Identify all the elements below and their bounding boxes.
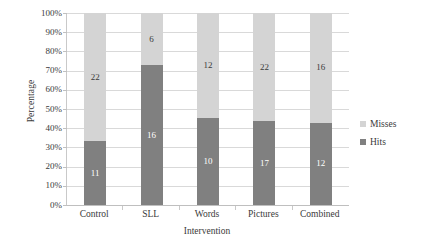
x-axis-tick-control: Control — [66, 208, 122, 220]
bar-segment-hits-control[interactable]: 11 — [84, 141, 106, 205]
x-axis-title: Intervention — [66, 226, 348, 236]
legend-item-misses[interactable]: Misses — [360, 116, 420, 131]
x-axis-tick-words: Words — [179, 208, 235, 220]
x-axis-tick-mark — [292, 206, 293, 210]
bar-label-hits-pictures: 17 — [260, 159, 269, 168]
legend-swatch-hits-icon — [360, 139, 366, 145]
legend-item-hits[interactable]: Hits — [360, 134, 420, 149]
y-axis-tick-40: 40% — [24, 124, 62, 133]
legend-label-hits: Hits — [370, 137, 386, 147]
bar-label-hits-combined: 12 — [316, 159, 325, 168]
x-axis-tick-combined: Combined — [292, 208, 348, 220]
bar-segment-misses-control[interactable]: 22 — [84, 13, 106, 141]
bar-label-hits-sll: 16 — [147, 131, 156, 140]
bar-group-words[interactable]: 1012 — [197, 13, 219, 205]
bar-segment-hits-words[interactable]: 10 — [197, 118, 219, 205]
chart-legend: MissesHits — [360, 116, 420, 152]
y-axis-tick-70: 70% — [24, 66, 62, 75]
x-axis-tick-mark — [179, 206, 180, 210]
x-axis-tick-labels: ControlSLLWordsPicturesCombined — [66, 208, 348, 222]
y-axis-tick-80: 80% — [24, 47, 62, 56]
bar-segment-misses-sll[interactable]: 6 — [141, 13, 163, 65]
y-axis-tick-mark — [63, 109, 67, 110]
bar-group-combined[interactable]: 1216 — [310, 13, 332, 205]
x-axis-tick-mark — [122, 206, 123, 210]
y-axis-tick-90: 90% — [24, 28, 62, 37]
bar-segment-hits-combined[interactable]: 12 — [310, 123, 332, 205]
plot-area: 1122166101217221216 — [66, 13, 349, 205]
y-axis-tick-mark — [63, 32, 67, 33]
y-axis-tick-mark — [63, 90, 67, 91]
y-axis-tick-20: 20% — [24, 162, 62, 171]
y-axis-tick-mark — [63, 13, 67, 14]
bar-segment-misses-pictures[interactable]: 22 — [253, 13, 275, 121]
legend-swatch-misses-icon — [360, 121, 366, 127]
bar-label-hits-control: 11 — [91, 169, 100, 178]
bar-segment-misses-combined[interactable]: 16 — [310, 13, 332, 123]
y-axis-tick-mark — [63, 167, 67, 168]
x-axis-tick-mark — [235, 206, 236, 210]
bar-segment-hits-sll[interactable]: 16 — [141, 65, 163, 205]
y-axis-tick-mark — [63, 128, 67, 129]
bar-segment-hits-pictures[interactable]: 17 — [253, 121, 275, 205]
bar-label-misses-sll: 6 — [149, 35, 154, 44]
bar-group-control[interactable]: 1122 — [84, 13, 106, 205]
bar-label-misses-words: 12 — [204, 61, 213, 70]
y-axis-tick-mark — [63, 51, 67, 52]
bar-label-hits-words: 10 — [204, 157, 213, 166]
x-axis-tick-pictures: Pictures — [235, 208, 291, 220]
y-axis-tick-30: 30% — [24, 143, 62, 152]
bar-label-misses-pictures: 22 — [260, 63, 269, 72]
y-axis-tick-mark — [63, 186, 67, 187]
bar-label-misses-control: 22 — [91, 73, 100, 82]
y-axis-tick-mark — [63, 147, 67, 148]
y-axis-tick-labels: 0%10%20%30%40%50%60%70%80%90%100% — [24, 13, 62, 205]
y-axis-tick-10: 10% — [24, 181, 62, 190]
stacked-bar-chart: Percentage 0%10%20%30%40%50%60%70%80%90%… — [0, 0, 422, 249]
bar-segment-misses-words[interactable]: 12 — [197, 13, 219, 118]
y-axis-tick-mark — [63, 205, 67, 206]
legend-label-misses: Misses — [370, 119, 396, 129]
bar-group-pictures[interactable]: 1722 — [253, 13, 275, 205]
y-axis-tick-100: 100% — [24, 9, 62, 18]
gridline — [67, 205, 349, 206]
y-axis-tick-mark — [63, 71, 67, 72]
bar-label-misses-combined: 16 — [316, 63, 325, 72]
bar-group-sll[interactable]: 166 — [141, 13, 163, 205]
y-axis-tick-50: 50% — [24, 105, 62, 114]
y-axis-tick-0: 0% — [24, 201, 62, 210]
x-axis-tick-sll: SLL — [122, 208, 178, 220]
y-axis-tick-60: 60% — [24, 85, 62, 94]
